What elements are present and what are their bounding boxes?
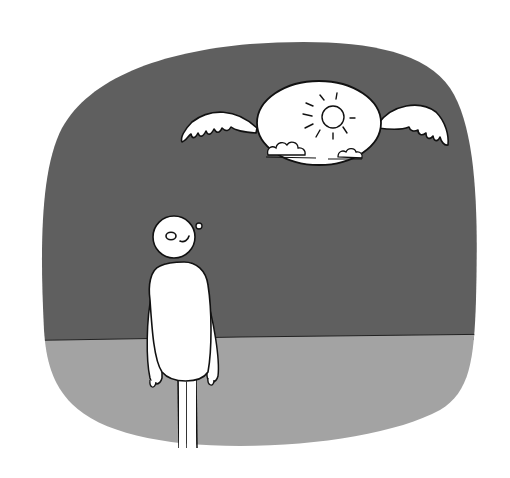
- torso: [149, 262, 211, 381]
- right-leg: [196, 380, 197, 448]
- grey-ground: [0, 334, 510, 478]
- left-leg: [178, 380, 179, 448]
- dark-sky: [0, 0, 510, 340]
- ear: [196, 223, 202, 229]
- illustration: [0, 0, 510, 478]
